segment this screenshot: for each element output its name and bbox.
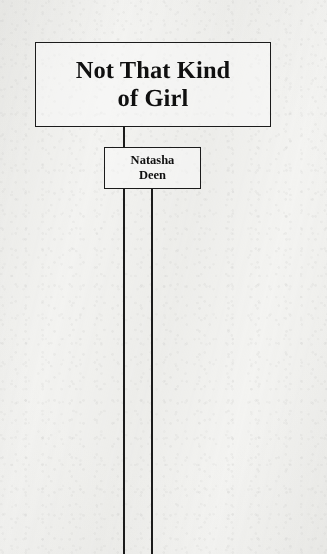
title-node-box: Not That Kind of Girl: [35, 42, 271, 127]
diagram-canvas: Not That Kind of Girl Natasha Deen: [0, 0, 327, 554]
author-node-box: Natasha Deen: [104, 147, 201, 189]
title-node-label: Not That Kind of Girl: [76, 57, 231, 112]
connector-author-branch-right: [151, 188, 153, 554]
connector-title-to-author: [123, 126, 125, 148]
author-node-label: Natasha Deen: [131, 153, 175, 183]
connector-author-branch-left: [123, 188, 125, 554]
